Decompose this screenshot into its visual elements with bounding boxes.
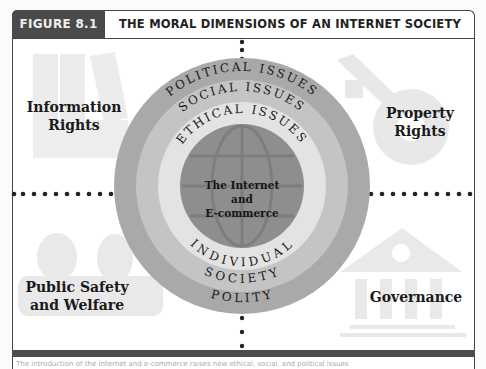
property-rights-line2: Rights (372, 122, 468, 140)
quadrant-information-rights: Information Rights (18, 98, 130, 134)
property-rights-line1: Property (372, 104, 468, 122)
quadrant-public-safety: Public Safety and Welfare (18, 278, 136, 314)
core-line2: and (192, 192, 292, 206)
governance-line1: Governance (358, 288, 474, 306)
quadrant-property-rights: Property Rights (372, 104, 468, 140)
government-building-icon (340, 228, 466, 337)
public-safety-line1: Public Safety (18, 278, 136, 296)
info-rights-line1: Information (18, 98, 130, 116)
core-line1: The Internet (192, 178, 292, 192)
info-rights-line2: Rights (18, 116, 130, 134)
core-label: The Internet and E-commerce (192, 178, 292, 220)
core-line3: E-commerce (192, 206, 292, 220)
bottom-divider-bar (12, 350, 475, 357)
quadrant-governance: Governance (358, 288, 474, 306)
public-safety-line2: and Welfare (18, 296, 136, 314)
figure-caption: The introduction of the Internet and e-c… (16, 360, 466, 369)
